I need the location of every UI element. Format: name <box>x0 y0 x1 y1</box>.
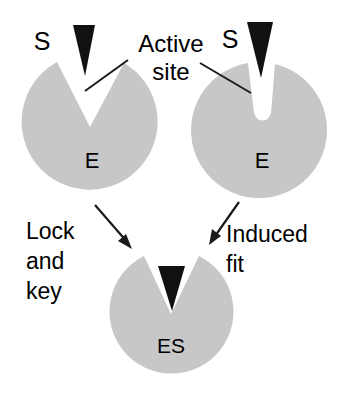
panel-es-complex: ES <box>110 256 234 374</box>
enzyme-shape-right <box>191 63 327 198</box>
lock-and-key-label-line3: key <box>26 278 62 304</box>
lock-and-key-label-line1: Lock <box>26 218 75 244</box>
substrate-shape-left <box>73 25 95 76</box>
enzyme-label-left: E <box>85 148 100 173</box>
enzyme-label-right: E <box>255 148 270 173</box>
lock-and-key-arrow-head <box>118 234 132 249</box>
substrate-label-right: S <box>222 25 239 53</box>
substrate-shape-right <box>247 22 273 78</box>
complex-label: ES <box>157 334 185 357</box>
enzyme-substrate-diagram: S E S E Active site <box>0 0 342 399</box>
active-site-label-line1: Active <box>138 30 203 57</box>
panel-lock-and-key: S E <box>22 25 158 190</box>
induced-fit-pathway: Induced fit <box>209 202 308 277</box>
induced-fit-label-line1: Induced <box>226 221 308 247</box>
lock-and-key-label-line2: and <box>26 248 64 274</box>
substrate-label-left: S <box>34 27 51 55</box>
diagram-canvas: S E S E Active site <box>0 0 342 399</box>
panel-induced-fit: S E <box>191 22 327 198</box>
active-site-label-line2: site <box>152 58 189 85</box>
induced-fit-label-line2: fit <box>226 251 245 277</box>
